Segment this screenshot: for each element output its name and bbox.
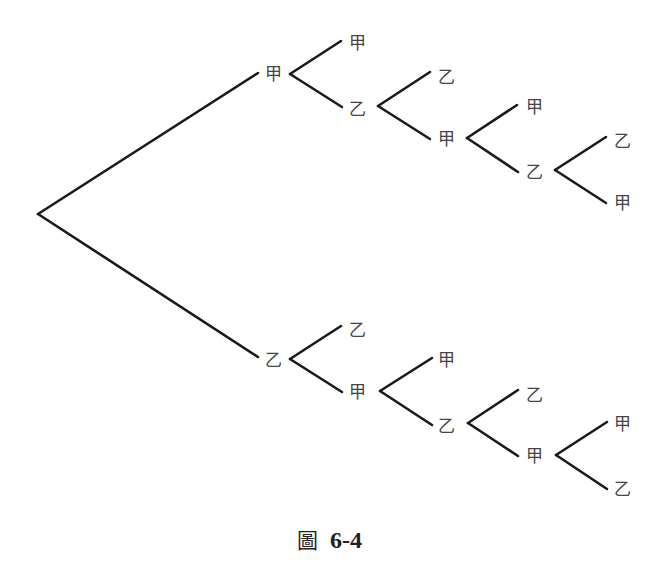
tree-diagram: 甲甲乙乙甲甲乙乙甲乙乙甲甲乙乙甲甲乙	[0, 0, 659, 568]
figure-caption: 圖6-4	[0, 524, 659, 554]
tree-edge	[468, 423, 518, 456]
tree-node-label: 甲	[438, 129, 455, 149]
tree-node-label: 乙	[265, 350, 282, 370]
tree-node-label: 甲	[438, 350, 455, 370]
tree-node-label: 乙	[349, 320, 366, 340]
tree-node-label: 乙	[614, 131, 631, 151]
tree-edge	[378, 106, 430, 139]
tree-edge	[556, 422, 607, 455]
figure-label: 圖	[297, 529, 318, 553]
tree-node-label: 乙	[438, 67, 455, 87]
tree-edge	[467, 105, 517, 138]
tree-edge	[38, 214, 258, 357]
tree-node-label: 甲	[349, 33, 366, 53]
tree-edge	[290, 359, 342, 392]
tree-node-label: 乙	[614, 479, 631, 499]
tree-nodes: 甲甲乙乙甲甲乙乙甲乙乙甲甲乙乙甲甲乙	[265, 33, 631, 499]
tree-node-label: 乙	[526, 385, 543, 405]
tree-node-label: 乙	[349, 99, 366, 119]
tree-edge	[290, 74, 342, 107]
tree-node-label: 甲	[614, 414, 631, 434]
tree-edge	[290, 41, 341, 74]
tree-edge	[555, 137, 606, 170]
tree-edge	[380, 391, 432, 425]
tree-edge	[290, 326, 341, 359]
tree-node-label: 甲	[614, 193, 631, 213]
tree-node-label: 乙	[526, 162, 543, 182]
tree-node-label: 甲	[526, 97, 543, 117]
tree-edge	[556, 455, 607, 489]
tree-node-label: 甲	[526, 446, 543, 466]
tree-edge	[38, 73, 258, 214]
tree-edges	[38, 41, 607, 489]
tree-edge	[467, 138, 518, 172]
tree-edge	[468, 390, 518, 423]
figure-number: 6-4	[330, 527, 362, 553]
tree-node-label: 甲	[349, 382, 366, 402]
tree-node-label: 甲	[265, 64, 282, 84]
tree-edge	[555, 170, 606, 203]
tree-node-label: 乙	[438, 416, 455, 436]
tree-edge	[378, 72, 430, 106]
tree-edge	[380, 358, 432, 391]
